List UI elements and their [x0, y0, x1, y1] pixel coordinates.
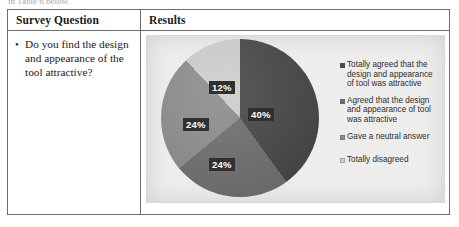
table-body-row: • Do you find the design and appearance … — [8, 31, 449, 215]
legend-label-3: Totally disagreed — [347, 155, 440, 165]
legend-entry-0: Totally agreed that the design and appea… — [340, 60, 440, 89]
legend-label-2: Gave a neutral answer — [347, 132, 440, 142]
legend-entry-2: Gave a neutral answer — [340, 132, 440, 142]
column-header-results: Results — [141, 14, 185, 26]
legend-entry-3: Totally disagreed — [340, 155, 440, 165]
chart-legend: Totally agreed that the design and appea… — [340, 60, 440, 172]
legend-label-1: Agreed that the design and appearance of… — [347, 96, 440, 125]
pie-slice-label-1: 24% — [209, 158, 235, 171]
legend-swatch-icon-0 — [340, 63, 345, 68]
column-header-survey-question: Survey Question — [8, 14, 99, 26]
legend-swatch-icon-1 — [340, 99, 345, 104]
question-list-item: • Do you find the design and appearance … — [15, 37, 135, 79]
bullet-icon: • — [15, 37, 25, 51]
results-cell: 40% 24% 24% 12% Totally agreed that the … — [141, 31, 449, 215]
survey-results-table: Survey Question Results • Do you find th… — [7, 9, 450, 215]
legend-label-0: Totally agreed that the design and appea… — [347, 60, 440, 89]
cutoff-caption-line: in Table 6 below. — [8, 0, 138, 5]
chart-plot-area: 40% 24% 24% 12% Totally agreed that the … — [147, 36, 445, 203]
table-header-cell-results: Results — [141, 10, 449, 30]
table-header-row: Survey Question Results — [8, 10, 449, 31]
table-header-cell-question: Survey Question — [8, 10, 141, 30]
legend-swatch-icon-3 — [340, 158, 345, 163]
survey-question-text: Do you find the design and appearance of… — [25, 37, 135, 79]
legend-swatch-icon-2 — [340, 135, 345, 140]
legend-entry-1: Agreed that the design and appearance of… — [340, 96, 440, 125]
pie-slice-label-0: 40% — [248, 108, 274, 121]
pie-chart-figure: 40% 24% 24% 12% Totally agreed that the … — [146, 35, 445, 203]
survey-question-cell: • Do you find the design and appearance … — [8, 31, 141, 215]
pie-slice-label-2: 24% — [183, 118, 209, 131]
pie-slice-label-3: 12% — [209, 81, 235, 94]
